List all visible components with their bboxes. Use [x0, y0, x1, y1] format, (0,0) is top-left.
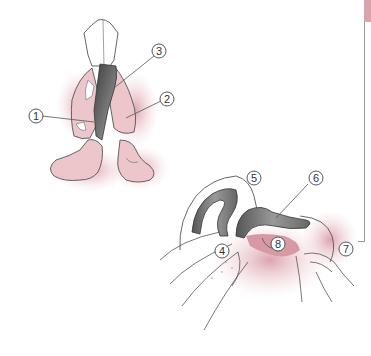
svg-text:1: 1: [33, 110, 39, 122]
page-margin-tab: [364, 0, 371, 22]
side-view-figure: [160, 176, 358, 330]
callout-7: 7: [339, 242, 353, 256]
svg-text:6: 6: [313, 172, 319, 184]
callout-3: 3: [152, 44, 166, 58]
side-view-leaders: [276, 184, 308, 218]
callout-1: 1: [29, 109, 43, 123]
anatomical-illustration: 1 2 3 5 6 4 8 7: [0, 0, 371, 356]
svg-text:3: 3: [156, 45, 162, 57]
callout-8: 8: [271, 237, 285, 251]
svg-text:5: 5: [251, 172, 257, 184]
svg-text:7: 7: [343, 243, 349, 255]
nose-cartilage-diagram: 1 2 3 5 6 4 8 7: [0, 0, 371, 356]
callout-2: 2: [160, 92, 174, 106]
margin-rule-horizontal: [358, 241, 365, 242]
callout-4: 4: [215, 244, 229, 258]
svg-text:8: 8: [275, 238, 281, 250]
callout-5: 5: [247, 171, 261, 185]
margin-rule-vertical: [364, 22, 365, 242]
svg-text:4: 4: [219, 245, 225, 257]
svg-text:2: 2: [164, 93, 170, 105]
callout-6: 6: [309, 171, 323, 185]
